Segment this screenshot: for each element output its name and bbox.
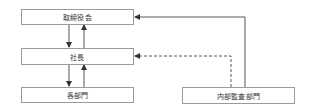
- node-internal-audit-label: 内部監査部門: [217, 91, 261, 101]
- node-departments: 各部門: [21, 87, 134, 103]
- node-internal-audit: 内部監査部門: [182, 87, 295, 104]
- node-departments-label: 各部門: [67, 90, 89, 100]
- arrow-audit-to-president: [135, 56, 231, 87]
- node-president-label: 社長: [70, 52, 85, 62]
- arrow-audit-to-board: [135, 17, 245, 87]
- node-board-label: 取締役会: [63, 12, 92, 22]
- node-president: 社長: [21, 48, 134, 65]
- node-board: 取締役会: [21, 9, 134, 25]
